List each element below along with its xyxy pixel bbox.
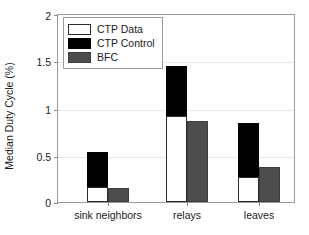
x-tick-mark-relays [187, 202, 188, 206]
legend-swatch-ctp-data-icon [68, 24, 91, 35]
legend-item-ctp-control: CTP Control [68, 36, 157, 50]
legend-swatch-ctp-control-icon [68, 38, 91, 49]
y-axis-title: Median Duty Cycle (%) [1, 15, 17, 218]
legend-label-ctp-data: CTP Data [97, 23, 143, 35]
bar-bfc-sink-neighbors [108, 188, 129, 202]
y-tick-mark-0 [54, 203, 58, 204]
legend-label-ctp-control: CTP Control [97, 37, 155, 49]
legend-item-bfc: BFC [68, 50, 157, 64]
x-tick-label-leaves: leaves [244, 209, 274, 221]
chart-figure: Median Duty Cycle (%) 0 0.5 1 1.5 2 sin [0, 0, 309, 235]
bar-bfc-relays [187, 121, 208, 202]
y-tick-label-1: 1 [45, 104, 51, 116]
x-tick-label-sink-neighbors: sink neighbors [74, 209, 142, 221]
legend-item-ctp-data: CTP Data [68, 22, 157, 36]
chart-legend: CTP Data CTP Control BFC [63, 17, 163, 69]
y-tick-label-2: 2 [45, 10, 51, 22]
y-tick-label-1.5: 1.5 [36, 56, 51, 68]
bar-ctp-data-leaves [238, 177, 259, 202]
y-tick-mark-1.5 [54, 62, 58, 63]
y-tick-mark-1 [54, 110, 58, 111]
bar-ctp-data-relays [166, 116, 187, 202]
bar-ctp-data-sink-neighbors [87, 187, 108, 202]
y-tick-mark-0.5 [54, 157, 58, 158]
x-tick-mark-sink-neighbors [108, 202, 109, 206]
y-tick-mark-2 [54, 15, 58, 16]
bar-bfc-leaves [259, 167, 280, 202]
legend-label-bfc: BFC [97, 51, 118, 63]
y-tick-label-0.5: 0.5 [36, 151, 51, 163]
x-tick-mark-leaves [259, 202, 260, 206]
x-tick-label-relays: relays [173, 209, 201, 221]
legend-swatch-bfc-icon [68, 52, 91, 63]
y-tick-label-0: 0 [45, 197, 51, 209]
